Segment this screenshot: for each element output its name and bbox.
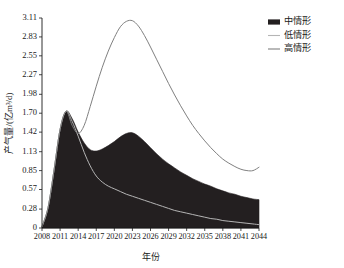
y-tick-label: 2.55 [22, 50, 37, 60]
y-tick-label: 0.28 [22, 203, 37, 213]
y-tick-label: 1.42 [22, 126, 37, 136]
x-tick-label: 2035 [197, 232, 213, 241]
x-tick-label: 2011 [52, 232, 68, 241]
y-tick-label: 0 [33, 222, 37, 232]
y-tick-label: 1.98 [22, 88, 37, 98]
x-tick-label: 2023 [124, 232, 140, 241]
legend-label: 高情形 [284, 42, 311, 53]
y-axis-title: 产气量/(亿m³/d) [3, 92, 14, 153]
x-tick-label: 2020 [106, 232, 122, 241]
x-tick-label: 2044 [251, 232, 267, 241]
y-tick-label: 1.70 [22, 107, 37, 117]
x-tick-label: 2017 [88, 232, 104, 241]
legend-label: 低情形 [284, 29, 311, 40]
legend-swatch-icon [268, 19, 280, 24]
legend-label: 中情形 [284, 15, 311, 26]
x-tick-label: 2032 [178, 232, 194, 241]
y-tick-label: 2.27 [22, 69, 37, 79]
y-tick-label: 0.57 [22, 183, 37, 193]
x-tick-label: 2038 [215, 232, 231, 241]
y-tick-label: 2.83 [22, 31, 37, 41]
x-tick-label: 2014 [70, 232, 86, 241]
x-axis-title: 年份 [142, 251, 160, 262]
y-tick-label: 0.85 [22, 165, 37, 175]
x-tick-label: 2041 [233, 232, 249, 241]
chart-figure: 00.280.570.851.131.421.701.982.272.552.8… [0, 0, 344, 268]
x-tick-label: 2029 [160, 232, 176, 241]
x-tick-label: 2026 [142, 232, 158, 241]
y-tick-label: 1.13 [22, 146, 37, 156]
y-tick-label: 3.11 [22, 12, 37, 22]
x-tick-label: 2008 [34, 232, 50, 241]
